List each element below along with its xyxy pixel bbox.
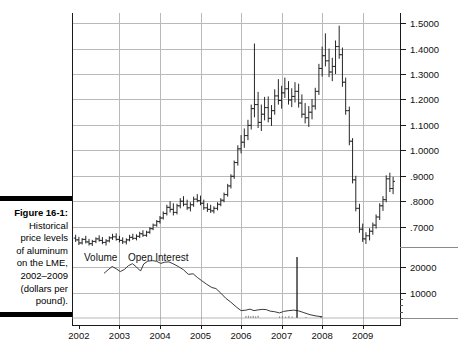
caption-line-2: of aluminum [0,245,68,258]
figure-label: Figure 16-1: [0,207,68,220]
y-axis-label: 1.3000 [410,69,439,80]
caption-rule-top [0,196,72,201]
x-axis-label: 2007 [271,330,292,341]
caption-line-3: on the LME, [0,257,68,270]
y-tick [400,201,406,202]
price-chart: 1.50001.40001.30001.20001.10001.0000.900… [72,0,458,357]
x-axis-label: 2005 [190,330,211,341]
caption-text: Figure 16-1: Historical price levels of … [0,207,72,308]
y-axis-label: 1.2000 [410,94,439,105]
y-axis-label: 1.0000 [410,145,439,156]
y-axis-label-volume: 20000 [410,262,436,273]
caption-line-4: 2002–2009 [0,270,68,283]
y-tick-minor [400,312,403,313]
y-tick [400,99,406,100]
x-axis-label: 2003 [109,330,130,341]
y-axis-label: .7000 [410,221,434,232]
volume-open-interest-layer [72,0,458,357]
open-interest-tail [320,317,322,318]
y-tick-volume [400,293,406,294]
x-axis-label: 2004 [149,330,170,341]
y-tick-minor [400,318,403,319]
x-axis-label: 2008 [312,330,333,341]
y-tick-minor [400,305,403,306]
x-axis-label: 2006 [230,330,251,341]
open-interest-line [104,261,322,317]
caption-line-6: pound). [0,295,68,308]
x-tick [201,325,202,329]
y-tick-minor [400,299,403,300]
y-tick [400,176,406,177]
open-interest-series-label: Open Interest [128,252,189,263]
caption-line-1: price levels [0,232,68,245]
x-tick [119,325,120,329]
y-tick [400,49,406,50]
figure-caption-block: Figure 16-1: Historical price levels of … [0,196,72,317]
x-axis-label: 2002 [68,330,89,341]
x-tick [363,325,364,329]
x-tick [241,325,242,329]
caption-line-5: (dollars per [0,283,68,296]
y-axis-label: .9000 [410,170,434,181]
y-tick [400,150,406,151]
y-tick [400,227,406,228]
x-tick [160,325,161,329]
y-axis-label: 1.1000 [410,119,439,130]
x-tick [322,325,323,329]
caption-line-0: Historical [0,220,68,233]
y-axis-label: 1.5000 [410,18,439,29]
x-tick [282,325,283,329]
y-axis-label-volume: 10000 [410,287,436,298]
volume-series-label: Volume [84,252,117,263]
y-tick [400,125,406,126]
y-tick [400,23,406,24]
caption-rule-bottom [0,312,72,317]
y-tick [400,74,406,75]
y-axis-label: .8000 [410,196,434,207]
x-tick [79,325,80,329]
y-axis-label: 1.4000 [410,43,439,54]
y-tick-volume [400,267,406,268]
x-axis-label: 2009 [352,330,373,341]
